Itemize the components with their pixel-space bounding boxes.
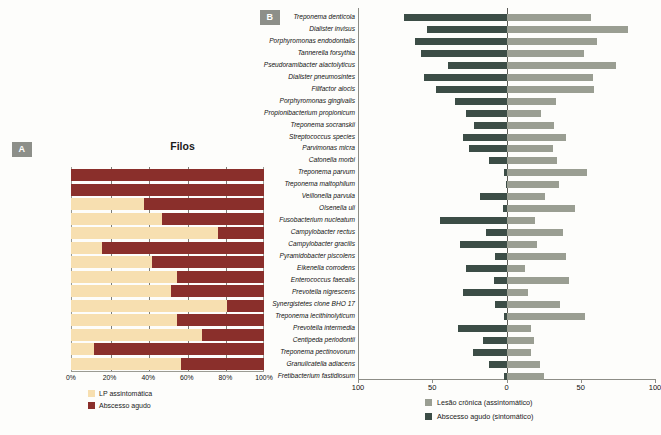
bar-segment-lp-assintomatica (71, 358, 181, 370)
bar-abscesso-agudo (404, 14, 507, 21)
panel-b-bar-row: Olsenella uli (359, 204, 655, 213)
panel-b-bar-row: Treponema pectinovorum (359, 348, 655, 357)
bar-abscesso-agudo (424, 74, 507, 81)
bar-abscesso-agudo (436, 86, 507, 93)
bar-abscesso-agudo (489, 361, 507, 368)
panel-b-species-label: Treponema denticola (195, 13, 359, 20)
legend-swatch (88, 390, 95, 397)
panel-b-tick-label: 50 (428, 383, 436, 392)
bar-lesao-cronica (507, 50, 584, 57)
bar-abscesso-agudo (495, 301, 507, 308)
panel-b-species-label: Fretibacterium fastidiosum (195, 372, 359, 379)
panel-b-bar-row: Granulicatella adiacens (359, 360, 655, 369)
panel-b-species-label: Pyramidobacter piscolens (195, 252, 359, 259)
panel-b-species-label: Porphyromonas endodontalis (195, 37, 359, 44)
panel-b-bar-row: Treponema denticola (359, 13, 655, 22)
bar-abscesso-agudo (463, 289, 507, 296)
legend-item: Lesão crônica (assintomático) (425, 398, 533, 407)
bar-abscesso-agudo (483, 337, 507, 344)
panel-b-bar-row: Pseudoramibacter alactolyticus (359, 61, 655, 70)
panel-b-bar-row: Porphyromonas endodontalis (359, 37, 655, 46)
legend-label: LP assintomática (99, 390, 152, 397)
bar-lesao-cronica (507, 277, 569, 284)
panel-b-bar-row: Campylobacter gracilis (359, 240, 655, 249)
panel-b-bar-row: Streptococcus species (359, 133, 655, 142)
panel-b-species-label: Olsenella uli (195, 204, 359, 211)
panel-b-species-label: Synergistetes clone BHO 17 (195, 300, 359, 307)
bar-lesao-cronica (507, 122, 554, 129)
bar-segment-lp-assintomatica (71, 271, 177, 283)
panel-b-bar-row: Treponema parvum (359, 168, 655, 177)
panel-b-bar-row: Filifactor alocis (359, 85, 655, 94)
panel-b-tick-label: 50 (577, 383, 585, 392)
panel-b-species-label: Prevotella nigrescens (195, 288, 359, 295)
panel-b-species-label: Dialister pneumosintes (195, 73, 359, 80)
bar-lesao-cronica (507, 337, 534, 344)
legend-swatch (88, 402, 95, 409)
panel-b-species-label: Streptococcus species (195, 133, 359, 140)
bar-abscesso-agudo (480, 193, 507, 200)
bar-abscesso-agudo (474, 122, 507, 129)
panel-b-bar-row: Catonella morbi (359, 156, 655, 165)
bar-lesao-cronica (507, 14, 591, 21)
panel-b-bar-row: Enterococcus faecalis (359, 276, 655, 285)
bar-abscesso-agudo (466, 265, 507, 272)
panel-a-tick-label: 60% (180, 374, 194, 381)
bar-lesao-cronica (507, 349, 531, 356)
bar-segment-lp-assintomatica (71, 198, 144, 210)
tick-mark (507, 379, 508, 383)
bar-lesao-cronica (507, 313, 585, 320)
bar-lesao-cronica (507, 134, 566, 141)
bar-segment-lp-assintomatica (71, 343, 94, 355)
panel-b-tick-label: 100 (649, 383, 661, 392)
panel-b-species-label: Veillonella parvula (195, 192, 359, 199)
bar-abscesso-agudo (455, 98, 507, 105)
bar-lesao-cronica (507, 301, 560, 308)
tick-mark (581, 379, 582, 383)
bar-lesao-cronica (507, 205, 575, 212)
legend-item: LP assintomática (88, 390, 152, 397)
bar-lesao-cronica (507, 38, 597, 45)
panel-a-tick-label: 40% (141, 374, 155, 381)
panel-b-bar-row: Treponema lecithinolyticum (359, 312, 655, 321)
panel-b-legend: Lesão crônica (assintomático)Abscesso ag… (425, 398, 533, 426)
bar-abscesso-agudo (463, 134, 507, 141)
bar-segment-lp-assintomatica (71, 314, 177, 326)
bar-lesao-cronica (507, 86, 594, 93)
legend-label: Lesão crônica (assintomático) (437, 398, 532, 407)
bar-abscesso-agudo (494, 277, 507, 284)
panel-b-species-label: Granulicatella adiacens (195, 360, 359, 367)
panel-b-species-label: Fusobacterium nucleatum (195, 216, 359, 223)
panel-b-species-label: Dialister invisus (195, 25, 359, 32)
panel-a-badge: A (12, 142, 32, 157)
bar-lesao-cronica (507, 169, 587, 176)
panel-a-tick-label: 0% (66, 374, 76, 381)
panel-b-bar-row: Veillonella parvula (359, 192, 655, 201)
panel-b-bar-row: Dialister pneumosintes (359, 73, 655, 82)
panel-b-species-label: Catonella morbi (195, 156, 359, 163)
legend-item: Abscesso agudo (sintomático) (425, 412, 533, 421)
bar-abscesso-agudo (440, 217, 507, 224)
bar-lesao-cronica (507, 62, 616, 69)
legend-swatch (425, 413, 432, 420)
panel-b-species-label: Treponema parvum (195, 168, 359, 175)
bar-lesao-cronica (507, 110, 541, 117)
panel-b-x-axis: 10050050100 (358, 383, 655, 395)
bar-lesao-cronica (507, 145, 553, 152)
panel-b-species-label: Prevotella intermedia (195, 324, 359, 331)
panel-b-bar-row: Tannerella forsythia (359, 49, 655, 58)
panel-b-species-label: Campylobacter rectus (195, 228, 359, 235)
bar-lesao-cronica (507, 241, 537, 248)
panel-b-plot-area: Treponema denticolaDialister invisusPorp… (358, 8, 655, 380)
bar-abscesso-agudo (489, 157, 507, 164)
bar-abscesso-agudo (469, 145, 507, 152)
bar-lesao-cronica (507, 253, 566, 260)
panel-b-tick-label: 100 (352, 383, 365, 392)
bar-abscesso-agudo (473, 349, 507, 356)
panel-b-species-label: Propionibacterium propionicum (195, 109, 359, 116)
bar-segment-lp-assintomatica (71, 213, 162, 225)
panel-a-tick-label: 20% (103, 374, 117, 381)
bar-lesao-cronica (507, 181, 559, 188)
panel-b-bar-row: Treponema maltophilum (359, 180, 655, 189)
panel-b-bar-row: Pyramidobacter piscolens (359, 252, 655, 261)
